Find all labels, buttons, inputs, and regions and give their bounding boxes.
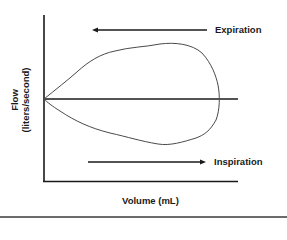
bottom-divider <box>0 216 287 218</box>
x-axis-label: Volume (mL) <box>122 196 179 206</box>
inspiration-label: Inspiration <box>214 157 263 167</box>
y-axis-label: Flow (liters/second) <box>3 66 39 134</box>
expiration-label: Expiration <box>215 25 261 35</box>
flow-volume-loop <box>44 43 219 144</box>
expiration-arrow <box>92 28 207 33</box>
y-axis-label-line2: (liters/second) <box>21 68 32 133</box>
inspiration-arrow <box>88 160 206 165</box>
